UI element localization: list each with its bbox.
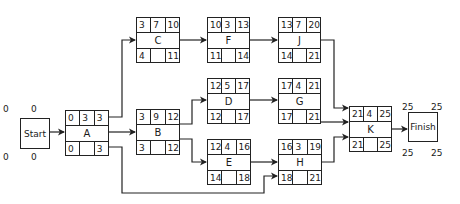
start-ls: 0 [3,152,9,162]
es: 0 [66,111,79,125]
es: 3 [137,110,150,124]
finish-label: Finish [410,122,436,132]
ls: 4 [137,49,150,63]
ef: 13 [235,18,249,32]
activity-node-g: 17421 G 1721 [278,78,321,124]
activity-node-c: 3710 C 411 [136,17,180,63]
activity-name: D [208,94,249,109]
start-es: 0 [3,104,9,114]
network-diagram: 0 0 Start 0 0 25 25 Finish 25 25 033 A 0… [0,0,460,204]
slack-cell [221,110,234,124]
slack-cell [221,171,235,185]
duration: 3 [79,111,93,125]
activity-name: E [208,155,250,170]
activity-node-j: 13720 J 1421 [278,17,321,63]
duration: 4 [221,140,235,154]
start-node: Start [20,118,50,149]
activity-node-b: 3912 B 312 [136,109,180,155]
activity-name: K [350,122,391,137]
activity-name: B [137,125,179,140]
activity-node-k: 21425 K 2125 [349,106,392,152]
ls: 18 [279,171,292,185]
duration: 7 [292,18,305,32]
duration: 4 [292,79,305,93]
ls: 17 [279,110,292,124]
finish-ls: 25 [402,148,413,158]
es: 3 [137,18,150,32]
ls: 12 [208,110,221,124]
slack-cell [363,138,376,152]
ls: 11 [208,49,221,63]
lf: 25 [377,138,391,152]
ef: 21 [306,79,320,93]
es: 10 [208,18,221,32]
lf: 21 [307,171,321,185]
activity-node-e: 12416 E 1418 [207,139,251,185]
es: 21 [350,107,363,121]
lf: 14 [235,49,249,63]
lf: 21 [306,110,320,124]
activity-name: F [208,33,249,48]
start-ef: 0 [31,104,37,114]
duration: 3 [292,140,306,154]
ef: 3 [94,111,108,125]
ef: 25 [377,107,391,121]
ef: 19 [307,140,321,154]
finish-ef: 25 [431,102,442,112]
activity-node-f: 10313 F 1114 [207,17,250,63]
duration: 4 [363,107,376,121]
activity-name: A [66,126,108,141]
finish-node: Finish [408,112,438,142]
finish-es: 25 [402,102,413,112]
ef: 12 [165,110,179,124]
ef: 17 [235,79,249,93]
lf: 3 [94,142,108,156]
finish-lf: 25 [431,148,442,158]
es: 16 [279,140,292,154]
ls: 14 [279,49,292,63]
ef: 16 [236,140,250,154]
lf: 18 [236,171,250,185]
activity-name: C [137,33,179,48]
es: 12 [208,140,221,154]
lf: 11 [165,49,179,63]
es: 12 [208,79,221,93]
lf: 12 [165,141,179,155]
ls: 14 [208,171,221,185]
ef: 20 [306,18,320,32]
slack-cell [292,171,306,185]
slack-cell [292,49,305,63]
activity-node-a: 033 A 03 [65,110,109,156]
ef: 10 [165,18,179,32]
start-label: Start [24,129,46,139]
activity-node-h: 16319 H 1821 [278,139,322,185]
duration: 3 [221,18,234,32]
activity-name: G [279,94,320,109]
duration: 9 [150,110,164,124]
start-lf: 0 [31,152,37,162]
slack-cell [79,142,93,156]
duration: 5 [221,79,234,93]
ls: 3 [137,141,150,155]
ls: 21 [350,138,363,152]
slack-cell [292,110,305,124]
activity-node-d: 12517 D 1217 [207,78,250,124]
lf: 17 [235,110,249,124]
es: 17 [279,79,292,93]
ls: 0 [66,142,79,156]
slack-cell [221,49,234,63]
slack-cell [150,49,164,63]
activity-name: J [279,33,320,48]
es: 13 [279,18,292,32]
duration: 7 [150,18,164,32]
activity-name: H [279,155,321,170]
slack-cell [150,141,164,155]
lf: 21 [306,49,320,63]
